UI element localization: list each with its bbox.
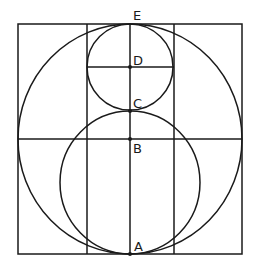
point-label-E: E xyxy=(133,8,141,23)
point-label-C: C xyxy=(133,96,142,111)
point-label-A: A xyxy=(134,239,143,254)
point-C-dot xyxy=(128,109,132,113)
point-B-dot xyxy=(128,137,132,141)
point-A-dot xyxy=(128,252,132,256)
geometric-construction-diagram: E D C B A xyxy=(0,0,256,267)
point-label-D: D xyxy=(133,53,143,68)
point-label-B: B xyxy=(133,141,142,156)
point-D-dot xyxy=(128,65,132,69)
